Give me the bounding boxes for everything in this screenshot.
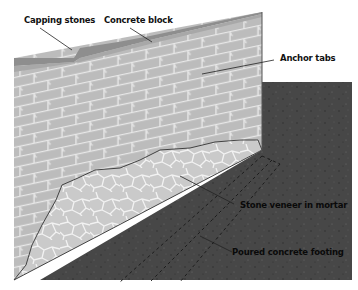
label-poured-concrete-footing: Poured concrete footing — [232, 247, 344, 257]
label-concrete-block: Concrete block — [104, 15, 173, 25]
label-anchor-tabs: Anchor tabs — [280, 53, 335, 63]
label-stone-veneer: Stone veneer in mortar — [240, 200, 347, 210]
label-capping-stones: Capping stones — [24, 15, 95, 25]
